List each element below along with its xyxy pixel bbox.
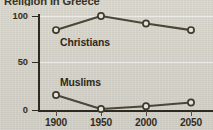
data-point-christians-1950 [98,13,104,19]
data-point-christians-1900 [53,27,59,33]
data-point-muslims-1900 [53,92,59,98]
series-muslims [53,92,194,112]
chart-figure: Religion in Greece 100 50 0 1900 1950 20… [0,0,213,130]
data-point-christians-2000 [143,20,149,26]
series-label-christians: Christians [60,37,110,48]
series-christians [53,13,194,33]
series-markers-muslims [53,92,194,112]
series-plot [0,0,213,130]
data-point-muslims-2000 [143,103,149,109]
series-label-muslims: Muslims [60,77,101,88]
data-point-muslims-1950 [98,106,104,112]
data-point-christians-2050 [188,27,194,33]
series-markers-christians [53,13,194,33]
series-line-muslims [56,95,191,109]
data-point-muslims-2050 [188,99,194,105]
series-line-christians [56,16,191,30]
